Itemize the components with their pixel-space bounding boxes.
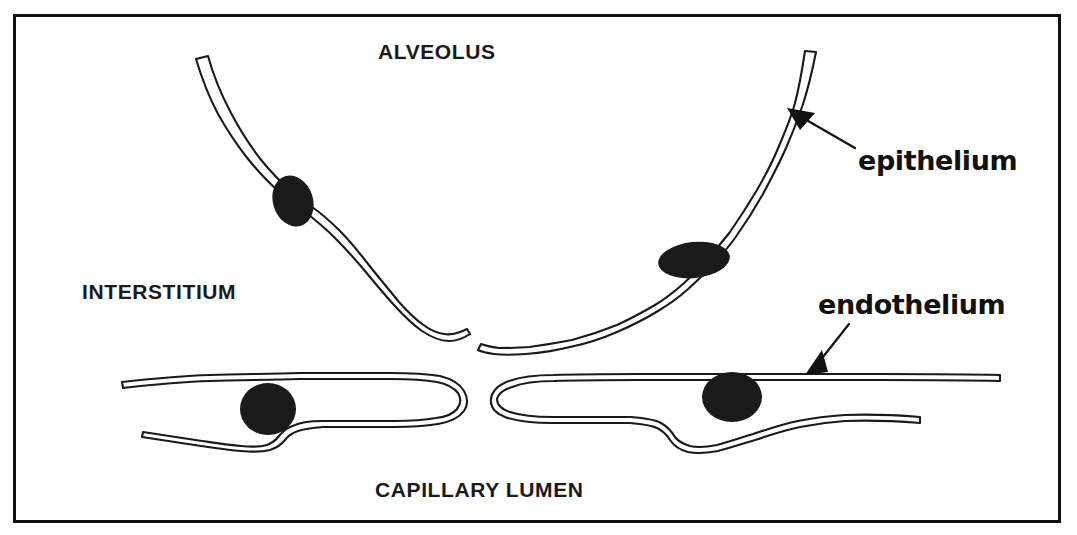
alveolar-capillary-diagram: ALVEOLUS INTERSTITIUM CAPILLARY LUMEN ep…	[0, 0, 1077, 535]
epithelial-cell-left	[196, 56, 470, 341]
callout-label-epithelium: epithelium	[858, 145, 1017, 176]
epithelial-cell-right	[478, 51, 816, 355]
endothelial-cell-left-nucleus	[240, 383, 296, 435]
epithelial-cell-right-outline	[478, 51, 816, 355]
region-label-alveolus: ALVEOLUS	[378, 40, 496, 63]
region-label-interstitium: INTERSTITIUM	[82, 280, 236, 303]
callout-epithelium: epithelium	[787, 108, 1017, 176]
figure-border	[15, 16, 1060, 522]
epithelium-leader-line	[803, 118, 855, 148]
figure-root: ALVEOLUS INTERSTITIUM CAPILLARY LUMEN ep…	[0, 0, 1077, 535]
endothelial-cell-right-nucleus	[702, 372, 762, 422]
endothelial-cell-left	[122, 373, 467, 452]
region-label-capillary-lumen: CAPILLARY LUMEN	[375, 478, 584, 501]
epithelial-cell-left-outline	[196, 56, 470, 341]
endothelial-cell-right	[491, 372, 1000, 453]
callout-endothelium: endothelium	[805, 289, 1005, 375]
callout-label-endothelium: endothelium	[818, 289, 1005, 320]
